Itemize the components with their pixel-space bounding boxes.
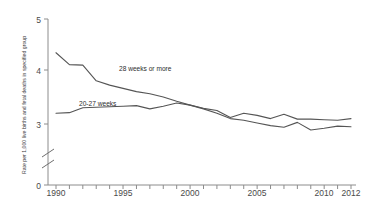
x-tick-label-2012: 2012 xyxy=(342,188,361,198)
x-tick-label-2000: 2000 xyxy=(181,188,200,198)
series-line-28-weeks-or-more xyxy=(56,53,351,130)
series-group xyxy=(56,53,351,130)
x-tick-group xyxy=(56,185,351,189)
x-tick-label-2005: 2005 xyxy=(248,188,267,198)
chart-canvas: Rate per 1,000 live births and fetal dea… xyxy=(0,0,368,208)
y-tick-group: 5 4 3 0 xyxy=(36,15,48,191)
x-tick-label-group: 1990 1995 2000 2005 2010 2012 xyxy=(47,188,361,198)
series-annotation-20-27-weeks: 20-27 weeks xyxy=(79,100,117,107)
x-tick-label-1995: 1995 xyxy=(114,188,133,198)
fetal-mortality-line-chart: Rate per 1,000 live births and fetal dea… xyxy=(0,0,368,208)
y-tick-label-5: 5 xyxy=(36,15,41,25)
y-axis-label: Rate per 1,000 live births and fetal dea… xyxy=(21,36,27,174)
y-tick-label-3: 3 xyxy=(36,120,41,130)
x-tick-label-1990: 1990 xyxy=(47,188,66,198)
x-tick-label-2010: 2010 xyxy=(315,188,334,198)
y-tick-label-0: 0 xyxy=(36,181,41,191)
series-annotation-28-weeks-or-more: 28 weeks or more xyxy=(119,65,172,72)
y-tick-label-4: 4 xyxy=(36,66,41,76)
